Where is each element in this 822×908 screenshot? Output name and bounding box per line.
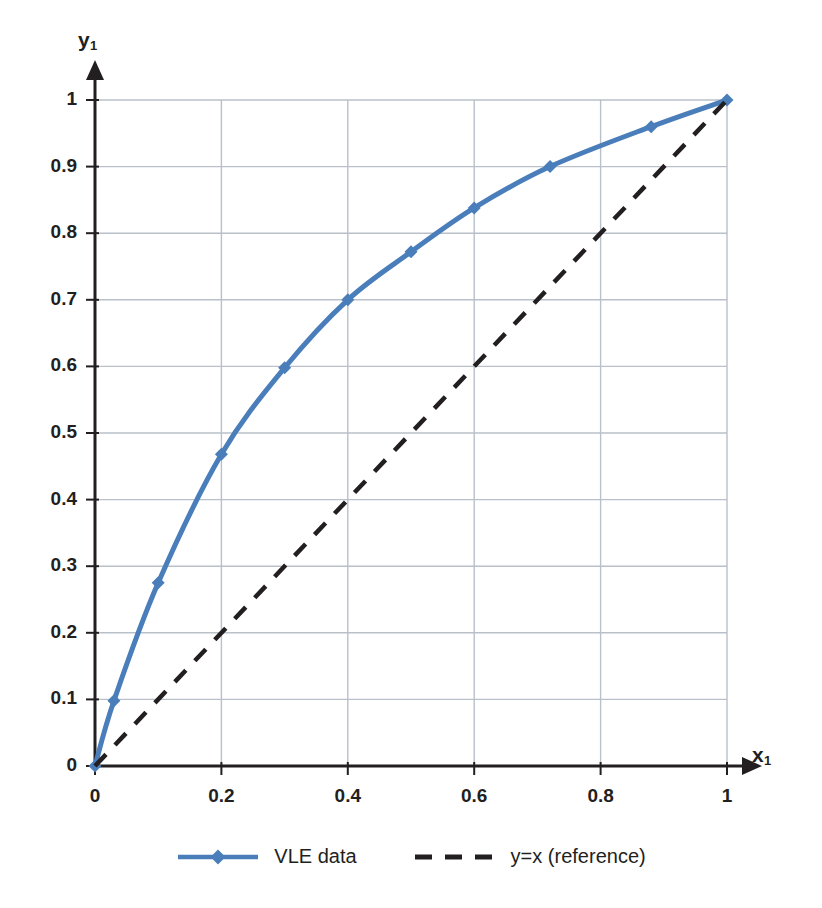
x-axis-tick-label: 1 — [697, 785, 757, 807]
legend-label: VLE data — [274, 845, 356, 868]
x-axis-title-subscript: 1 — [764, 753, 771, 768]
x-axis-tick-label: 0.4 — [318, 785, 378, 807]
y-axis-title-text: y — [78, 28, 90, 51]
x-axis-title-text: x — [752, 743, 764, 766]
y-axis-tick-label: 0.6 — [19, 354, 77, 376]
y-axis-tick-label: 0 — [19, 754, 77, 776]
x-axis-tick-label: 0.2 — [191, 785, 251, 807]
y-axis-tick-label: 0.4 — [19, 488, 77, 510]
x-axis-title: x1 — [752, 743, 771, 767]
y-axis-tick-label: 0.9 — [19, 155, 77, 177]
vle-equilibrium-chart: y1 x1 00.10.20.30.40.50.60.70.80.9100.20… — [0, 0, 822, 908]
y-axis-tick-label: 0.7 — [19, 288, 77, 310]
x-axis-tick-label: 0 — [65, 785, 125, 807]
data-point-marker — [645, 120, 658, 133]
legend-entry[interactable]: VLE data — [176, 845, 356, 868]
y-axis-tick-label: 0.1 — [19, 687, 77, 709]
legend-dashed-line-icon — [413, 846, 497, 868]
y-axis-title: y1 — [78, 28, 97, 52]
plot-area — [0, 0, 822, 908]
y-axis-tick-label: 0.3 — [19, 554, 77, 576]
y-axis-tick-label: 0.2 — [19, 621, 77, 643]
gridlines — [95, 100, 727, 766]
y-axis-tick-label: 0.5 — [19, 421, 77, 443]
legend-label: y=x (reference) — [511, 845, 646, 868]
x-axis-tick-label: 0.6 — [444, 785, 504, 807]
y-axis-title-subscript: 1 — [90, 38, 97, 53]
y-axis-tick-label: 0.8 — [19, 221, 77, 243]
chart-legend: VLE datay=x (reference) — [0, 845, 822, 868]
legend-entry[interactable]: y=x (reference) — [413, 845, 646, 868]
data-point-marker — [107, 694, 120, 707]
x-axis-tick-label: 0.8 — [571, 785, 631, 807]
y-axis-tick-label: 1 — [19, 88, 77, 110]
legend-line-marker-icon — [176, 846, 260, 868]
